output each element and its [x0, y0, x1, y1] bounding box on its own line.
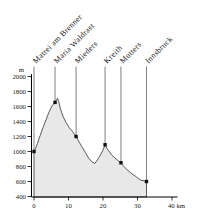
- x-axis-tick-label: 0: [32, 202, 36, 209]
- y-axis-tick-label: 1000: [12, 148, 26, 155]
- y-axis-tick-label: 400: [16, 193, 27, 200]
- x-axis-tick-label: 30: [134, 202, 141, 209]
- y-axis-tick-label: 1600: [12, 103, 26, 110]
- location-label: Innsbruck: [144, 35, 175, 66]
- profile-svg: 400600800100012001400160018002000m010203…: [0, 0, 198, 219]
- elevation-profile-chart: 400600800100012001400160018002000m010203…: [0, 0, 198, 219]
- chart-area: 400600800100012001400160018002000m010203…: [0, 0, 198, 219]
- location-marker: [32, 150, 35, 153]
- x-axis-tick-label: 10: [65, 202, 72, 209]
- location-label: Mutters: [118, 40, 143, 65]
- elevation-area: [34, 98, 147, 197]
- location-marker: [103, 143, 106, 146]
- y-axis-tick-label: 2000: [12, 73, 26, 80]
- location-marker: [74, 135, 77, 138]
- y-axis-tick-label: 1800: [12, 88, 26, 95]
- location-marker: [145, 180, 148, 183]
- y-axis-tick-label: 1200: [12, 133, 26, 140]
- location-marker: [53, 101, 56, 104]
- x-axis-tick-label: 40 km: [168, 202, 186, 209]
- y-axis-tick-label: 800: [16, 163, 27, 170]
- y-axis-unit-label: m: [19, 66, 25, 73]
- x-axis-tick-label: 20: [100, 202, 107, 209]
- x-axis: 010203040 km: [32, 197, 186, 209]
- y-axis-tick-label: 1400: [12, 118, 26, 125]
- y-axis-tick-label: 600: [16, 178, 27, 185]
- location-marker: [119, 161, 122, 164]
- y-axis: 400600800100012001400160018002000m: [12, 66, 31, 200]
